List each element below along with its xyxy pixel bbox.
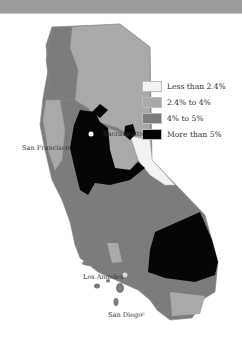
city-label-sacramento: Sacramento	[103, 130, 143, 138]
legend-item-4-to-5: 4% to 5%	[142, 111, 240, 126]
island	[116, 283, 124, 293]
legend-item-less-than-2-4: Less than 2.4%	[142, 79, 240, 94]
city-label-los-angeles: Los Angeles	[83, 273, 123, 281]
city-label-san-francisco: San Francisco	[22, 144, 70, 152]
legend-swatch	[142, 113, 162, 124]
legend-label: More than 5%	[167, 130, 222, 139]
legend-label: Less than 2.4%	[167, 82, 226, 91]
island	[94, 284, 100, 289]
map-legend: Less than 2.4% 2.4% to 4% 4% to 5% More …	[142, 79, 240, 143]
legend-label: 4% to 5%	[167, 114, 204, 123]
legend-item-2-4-to-4: 2.4% to 4%	[142, 95, 240, 110]
legend-label: 2.4% to 4%	[167, 98, 211, 107]
island	[114, 298, 119, 306]
legend-item-more-than-5: More than 5%	[142, 127, 240, 142]
legend-swatch	[142, 97, 162, 108]
sacramento-marker	[89, 132, 94, 137]
california-county-map	[0, 0, 242, 337]
south-light-region	[170, 292, 205, 316]
island	[93, 262, 103, 267]
coast-region	[43, 100, 65, 170]
city-label-san-diego: San Diego	[108, 311, 142, 319]
legend-swatch	[142, 129, 162, 140]
legend-swatch	[142, 81, 162, 92]
